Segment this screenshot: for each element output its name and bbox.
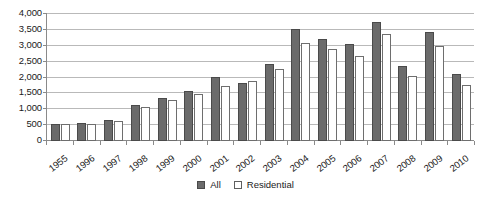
bar-all [398, 66, 407, 141]
x-axis-tick-label: 2009 [422, 153, 444, 174]
y-axis-tick-label: 3,000 [0, 40, 42, 50]
y-axis-tick-mark [43, 61, 47, 62]
bar-residential [275, 69, 284, 141]
x-axis-tick-mark [260, 141, 261, 145]
legend-label-residential: Residential [247, 180, 294, 190]
x-axis-tick-label: 1955 [47, 153, 69, 174]
bar-all [158, 98, 167, 141]
y-axis-tick-label: 3,500 [0, 24, 42, 34]
x-axis-tick-label: 2006 [341, 153, 363, 174]
bar-residential [61, 124, 70, 141]
bar-residential [462, 85, 471, 141]
bars-layer [46, 13, 474, 141]
x-axis-tick-label: 2002 [234, 153, 256, 174]
x-axis-tick-label: 2001 [208, 153, 230, 174]
y-axis-labels: 05001,0001,5002,0002,5003,0003,5004,000 [0, 0, 42, 200]
x-axis-tick-label: 2007 [368, 153, 390, 174]
y-axis-tick-mark [43, 45, 47, 46]
x-axis-tick-mark [207, 141, 208, 145]
bar-residential [221, 86, 230, 141]
y-axis-tick-label: 1,500 [0, 87, 42, 97]
x-axis-tick-label: 1999 [154, 153, 176, 174]
x-axis-tick-label: 1997 [101, 153, 123, 174]
legend-label-all: All [210, 180, 221, 190]
bar-all [291, 29, 300, 141]
x-axis-tick-label: 2004 [288, 153, 310, 174]
bar-group [156, 14, 183, 141]
y-axis-tick-label: 2,000 [0, 72, 42, 82]
x-axis-tick-mark [153, 141, 154, 145]
y-axis-tick-label: 0 [0, 135, 42, 145]
bar-group [423, 14, 450, 141]
bar-group [182, 14, 209, 141]
bar-group [102, 14, 129, 141]
bar-group [450, 14, 477, 141]
x-axis-tick-mark [233, 141, 234, 145]
bar-residential [408, 76, 417, 141]
bar-residential [194, 94, 203, 141]
bar-all [425, 32, 434, 141]
x-axis-tick-mark [287, 141, 288, 145]
x-axis-tick-label: 1996 [74, 153, 96, 174]
bar-residential [355, 56, 364, 141]
bar-group [236, 14, 263, 141]
y-axis-tick-mark [43, 13, 47, 14]
bar-group [49, 14, 76, 141]
y-axis-tick-label: 500 [0, 119, 42, 129]
x-axis-labels: 1955199619971998199920002001200220032004… [46, 146, 474, 176]
x-axis-tick-label: 2003 [261, 153, 283, 174]
bar-residential [301, 43, 310, 141]
x-axis-tick-label: 2008 [395, 153, 417, 174]
y-axis-tick-mark [43, 108, 47, 109]
bar-all [131, 105, 140, 142]
bar-group [289, 14, 316, 141]
bar-group [129, 14, 156, 141]
x-axis-ticks [46, 141, 474, 145]
x-axis-tick-mark [180, 141, 181, 145]
bar-group [370, 14, 397, 141]
bar-all [265, 64, 274, 141]
bar-residential [382, 34, 391, 141]
bar-residential [248, 81, 257, 141]
y-axis-tick-label: 1,000 [0, 103, 42, 113]
y-axis-tick-mark [43, 124, 47, 125]
x-axis-tick-mark [474, 141, 475, 145]
bar-group [75, 14, 102, 141]
bar-all [51, 124, 60, 141]
x-axis-tick-mark [421, 141, 422, 145]
x-axis-tick-label: 2010 [448, 153, 470, 174]
x-axis-tick-label: 2000 [181, 153, 203, 174]
bar-group [343, 14, 370, 141]
x-axis-tick-mark [314, 141, 315, 145]
bar-residential [328, 49, 337, 141]
bar-all [372, 22, 381, 141]
bar-group [396, 14, 423, 141]
bar-residential [114, 121, 123, 141]
x-axis-tick-mark [447, 141, 448, 145]
legend-item-residential: Residential [234, 180, 294, 190]
x-axis-tick-mark [73, 141, 74, 145]
filled-gray-square-icon [197, 181, 205, 189]
bar-all [238, 83, 247, 141]
y-axis-tick-mark [43, 77, 47, 78]
y-axis-tick-mark [43, 29, 47, 30]
x-axis-tick-mark [394, 141, 395, 145]
bar-chart: 05001,0001,5002,0002,5003,0003,5004,000 … [0, 0, 491, 200]
bar-all [184, 91, 193, 141]
bar-residential [435, 46, 444, 141]
y-axis-tick-label: 2,500 [0, 56, 42, 66]
x-axis-tick-mark [46, 141, 47, 145]
bar-all [345, 44, 354, 141]
y-axis-tick-mark [43, 92, 47, 93]
x-axis-tick-mark [340, 141, 341, 145]
bar-all [77, 123, 86, 141]
bar-all [211, 77, 220, 141]
legend-item-all: All [197, 180, 221, 190]
y-axis-tick-label: 4,000 [0, 8, 42, 18]
x-axis-tick-mark [100, 141, 101, 145]
x-axis-tick-mark [367, 141, 368, 145]
outlined-white-square-icon [234, 181, 242, 189]
bar-all [104, 120, 113, 141]
bar-residential [87, 124, 96, 141]
bar-group [316, 14, 343, 141]
